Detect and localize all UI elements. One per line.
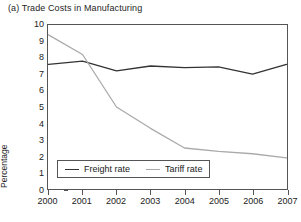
y-axis-label-text: Percentage <box>0 145 9 188</box>
y-tick-label: 2 <box>24 152 44 162</box>
legend-entry-tariff: Tariff rate <box>146 164 202 174</box>
y-tick-label: 9 <box>24 36 44 46</box>
y-tick-label: 10 <box>24 19 44 29</box>
legend-swatch-freight <box>65 169 79 170</box>
y-tick-label: 7 <box>24 69 44 79</box>
y-tick-label: 6 <box>24 85 44 95</box>
x-tick-mark <box>150 190 151 195</box>
chart-legend: Freight rate Tariff rate <box>57 160 210 178</box>
x-tick-label: 2007 <box>268 196 301 206</box>
legend-entry-freight: Freight rate <box>65 164 130 174</box>
x-tick-mark <box>116 190 117 195</box>
x-tick-mark <box>82 190 83 195</box>
chart-figure: (a) Trade Costs in Manufacturing Percent… <box>0 0 300 222</box>
y-tick-label: 8 <box>24 52 44 62</box>
x-tick-mark <box>288 190 289 195</box>
y-axis-label: Percentage <box>0 0 9 70</box>
y-tick-label: 3 <box>24 135 44 145</box>
y-tick-label: 4 <box>24 119 44 129</box>
x-tick-mark <box>185 190 186 195</box>
x-tick-mark <box>219 190 220 195</box>
legend-label-tariff: Tariff rate <box>165 164 202 174</box>
series-line <box>48 35 286 158</box>
legend-label-freight: Freight rate <box>84 164 130 174</box>
series-line <box>48 61 286 74</box>
y-tick-label: 5 <box>24 102 44 112</box>
y-axis-ticks: 012345678910 <box>22 0 44 222</box>
legend-swatch-tariff <box>146 169 160 170</box>
y-tick-label: 0 <box>24 185 44 195</box>
y-tick-label: 1 <box>24 168 44 178</box>
y-tick-mark <box>64 190 68 191</box>
x-tick-mark <box>48 190 49 195</box>
x-tick-mark <box>253 190 254 195</box>
